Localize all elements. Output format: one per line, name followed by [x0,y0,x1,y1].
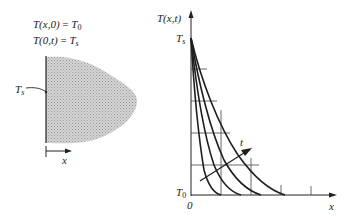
wall-label-dot [45,91,47,93]
diagram-canvas [0,0,351,217]
y-axis-arrowhead [189,10,194,18]
solid-region [46,57,137,144]
x-axis-arrowhead [329,193,337,198]
construction-lines [191,69,311,195]
time-arrowhead [241,148,252,156]
x-direction-arrowhead [65,149,72,154]
time-arrow [200,151,247,181]
temperature-profiles [191,38,285,195]
wall-label-leader [26,88,46,92]
